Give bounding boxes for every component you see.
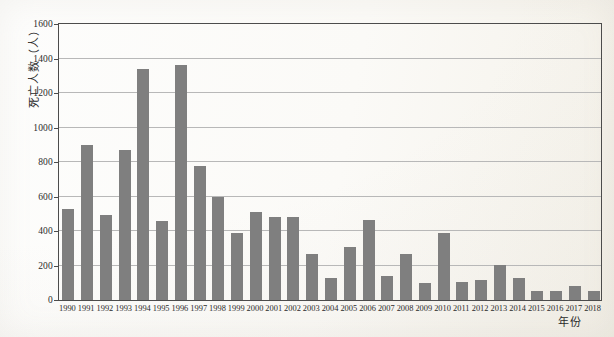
y-tick-label: 800 — [13, 157, 53, 167]
x-tick-label: 2009 — [415, 304, 432, 313]
y-tick-label: 400 — [13, 226, 53, 236]
bar-2009 — [419, 283, 431, 300]
x-tick-label: 2007 — [378, 304, 395, 313]
x-tick-label: 2018 — [584, 304, 601, 313]
y-tick-mark — [54, 24, 58, 25]
bar-1999 — [231, 233, 243, 300]
bar-chart: 死亡人数（人） 02004006008001000120014001600 19… — [0, 0, 614, 337]
bar-2015 — [531, 291, 543, 300]
bar-2017 — [569, 286, 581, 300]
y-tick-mark — [54, 197, 58, 198]
bar-2010 — [438, 233, 450, 300]
x-tick-label: 1999 — [228, 304, 245, 313]
x-tick-label: 2004 — [322, 304, 339, 313]
y-tick-label: 0 — [13, 295, 53, 305]
x-tick-label: 2015 — [528, 304, 545, 313]
bar-1995 — [156, 221, 168, 300]
y-tick-label: 1400 — [13, 54, 53, 64]
bar-1998 — [212, 197, 224, 301]
gridline — [59, 58, 601, 59]
bar-2005 — [344, 247, 356, 300]
y-tick-mark — [54, 128, 58, 129]
bar-1990 — [62, 209, 74, 300]
bar-2002 — [287, 217, 299, 300]
x-tick-label: 2005 — [340, 304, 357, 313]
bar-2008 — [400, 254, 412, 300]
y-tick-mark — [54, 93, 58, 94]
bar-2011 — [456, 282, 468, 300]
x-tick-label: 2000 — [247, 304, 264, 313]
plot-area — [58, 23, 602, 301]
bar-2000 — [250, 212, 262, 300]
bar-1993 — [119, 150, 131, 300]
bar-2016 — [550, 291, 562, 300]
x-tick-label: 1990 — [59, 304, 76, 313]
x-tick-label: 2003 — [303, 304, 320, 313]
y-tick-label: 200 — [13, 261, 53, 271]
x-tick-label: 1997 — [190, 304, 207, 313]
x-tick-label: 2014 — [509, 304, 526, 313]
scanned-figure: 死亡人数（人） 02004006008001000120014001600 19… — [0, 0, 614, 337]
bar-2006 — [363, 220, 375, 300]
y-tick-mark — [54, 266, 58, 267]
x-tick-label: 1991 — [78, 304, 95, 313]
y-tick-mark — [54, 59, 58, 60]
bar-2012 — [475, 280, 487, 300]
bar-2004 — [325, 278, 337, 300]
x-axis-title: 年份 — [558, 313, 582, 329]
x-tick-label: 1992 — [97, 304, 114, 313]
bar-1991 — [81, 145, 93, 300]
x-tick-label: 2010 — [434, 304, 451, 313]
bar-2018 — [588, 291, 600, 300]
y-tick-label: 1000 — [13, 123, 53, 133]
x-tick-label: 1993 — [115, 304, 132, 313]
x-tick-label: 2016 — [547, 304, 564, 313]
bar-2003 — [306, 254, 318, 300]
bar-2014 — [513, 278, 525, 300]
bar-2007 — [381, 276, 393, 300]
x-tick-label: 2011 — [453, 304, 469, 313]
bar-2013 — [494, 265, 506, 300]
bar-1994 — [137, 69, 149, 300]
y-tick-mark — [54, 231, 58, 232]
bar-1997 — [194, 166, 206, 300]
y-tick-label: 600 — [13, 192, 53, 202]
y-tick-mark — [54, 162, 58, 163]
y-tick-label: 1200 — [13, 88, 53, 98]
bar-1996 — [175, 65, 187, 300]
x-tick-label: 1994 — [134, 304, 151, 313]
x-tick-label: 2013 — [490, 304, 507, 313]
y-tick-mark — [54, 300, 58, 301]
x-tick-label: 2002 — [284, 304, 301, 313]
x-tick-label: 2017 — [565, 304, 582, 313]
x-tick-label: 1995 — [153, 304, 170, 313]
x-tick-label: 2006 — [359, 304, 376, 313]
x-tick-label: 2008 — [397, 304, 414, 313]
y-tick-label: 1600 — [13, 19, 53, 29]
x-tick-label: 2001 — [265, 304, 282, 313]
x-tick-label: 1996 — [172, 304, 189, 313]
bar-1992 — [100, 215, 112, 300]
x-tick-label: 2012 — [472, 304, 489, 313]
bar-2001 — [269, 217, 281, 300]
x-tick-label: 1998 — [209, 304, 226, 313]
